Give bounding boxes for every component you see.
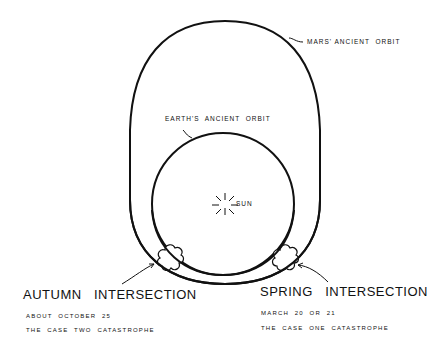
autumn-date: ABOUT OCTOBER 25 (26, 313, 111, 319)
spring-date: MARCH 20 OR 21 (261, 310, 336, 316)
spring-intersection-title: SPRING INTERSECTION (260, 285, 428, 298)
mars-orbit (130, 21, 320, 284)
autumn-arrow (122, 264, 154, 284)
mars-leader-line (289, 38, 303, 42)
earth-orbit-label: EARTH'S ANCIENT ORBIT (165, 116, 271, 123)
earth-leader-line (183, 130, 192, 138)
autumn-intersection-title: AUTUMN INTERSECTION (23, 288, 197, 301)
sun-label: SUN (236, 201, 253, 208)
spring-explosion-icon (273, 245, 299, 271)
sun-icon (212, 193, 238, 215)
spring-arrow (298, 265, 328, 282)
mars-orbit-label: MARS' ANCIENT ORBIT (307, 39, 400, 46)
spring-case: THE CASE ONE CATASTROPHE (261, 325, 389, 331)
autumn-case: THE CASE TWO CATASTROPHE (26, 327, 155, 333)
